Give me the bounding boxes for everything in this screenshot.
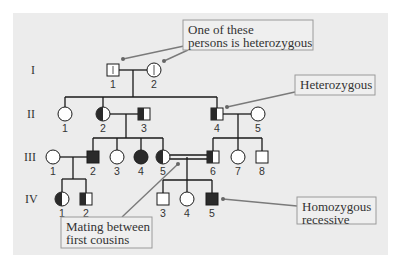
generation-label: III [24, 150, 36, 164]
individual-iii-1-number: 1 [50, 165, 56, 177]
individual-ii-5-number: 5 [255, 122, 261, 134]
individual-ii-4-number: 4 [214, 122, 220, 134]
individual-iii-6-number: 6 [210, 165, 216, 177]
individual-iv-3-square-symbol [157, 193, 169, 205]
individual-ii-5-circle-symbol [251, 107, 265, 121]
individual-iii-8-number: 8 [259, 165, 265, 177]
callout-one-heterozygous-pointer-dot [121, 57, 125, 61]
pedigree-diagram: IIIIIIIV12123451234567812345One of these… [0, 0, 399, 263]
generation-label: IV [25, 192, 38, 206]
individual-iv-4-number: 4 [184, 207, 190, 219]
individual-ii-3-half-fill [138, 108, 144, 120]
individual-i-1-number: 1 [110, 78, 116, 90]
individual-ii-4-half-fill [211, 108, 217, 120]
generation-label: I [31, 63, 35, 77]
individual-iv-5-number: 5 [209, 207, 215, 219]
callout-homozygous-recessive-text: recessive [302, 212, 350, 227]
individual-ii-1-number: 1 [62, 122, 68, 134]
individual-iii-2-number: 2 [90, 165, 96, 177]
individual-iv-2-half-fill [80, 193, 86, 205]
individual-ii-3-number: 3 [141, 122, 147, 134]
callout-mating-first-cousins-text: first cousins [66, 232, 129, 247]
individual-iii-7-circle-symbol [231, 150, 245, 164]
individual-iii-2-square-symbol [87, 151, 99, 163]
callout-homozygous-recessive-pointer-dot [221, 197, 225, 201]
callout-one-heterozygous-pointer-dot [162, 59, 166, 63]
individual-iv-5-square-symbol [206, 193, 218, 205]
callout-mating-first-cousins-pointer-dot [176, 162, 180, 166]
generation-label: II [27, 107, 35, 121]
individual-iii-4-circle-symbol [134, 150, 148, 164]
pedigree-svg: IIIIIIIV12123451234567812345One of these… [0, 0, 399, 263]
individual-iii-1-circle-symbol [46, 150, 60, 164]
individual-iii-3-number: 3 [114, 165, 120, 177]
callout-heterozygous-pointer-dot [225, 105, 229, 109]
callout-heterozygous-text: Heterozygous [300, 77, 372, 92]
individual-iii-7-number: 7 [235, 165, 241, 177]
individual-iii-4-number: 4 [138, 165, 144, 177]
individual-iv-4-circle-symbol [180, 192, 194, 206]
individual-iii-8-square-symbol [256, 151, 268, 163]
individual-ii-2-number: 2 [100, 122, 106, 134]
individual-iii-3-circle-symbol [110, 150, 124, 164]
callout-one-heterozygous-text: persons is heterozygous [188, 35, 312, 50]
individual-iii-6-half-fill [207, 151, 213, 163]
individual-iv-3-number: 3 [160, 207, 166, 219]
individual-ii-1-circle-symbol [58, 107, 72, 121]
individual-i-2-number: 2 [151, 78, 157, 90]
